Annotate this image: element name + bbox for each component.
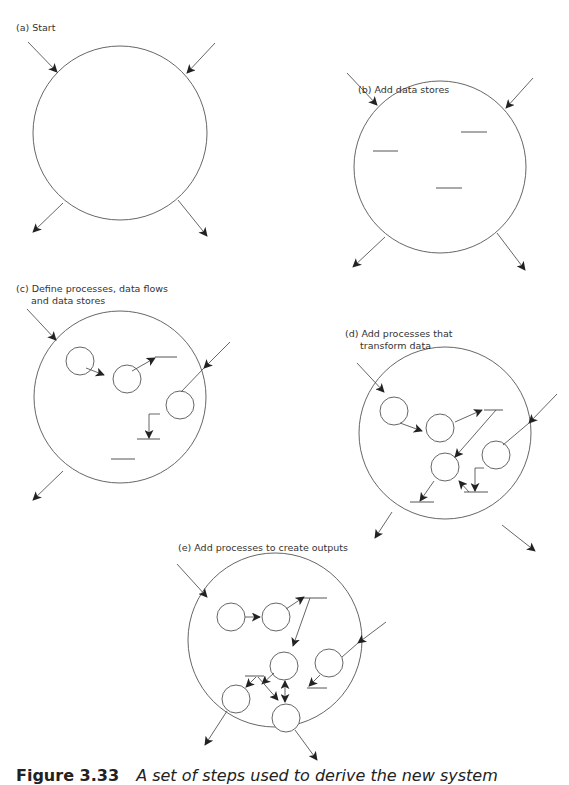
process-bubble — [262, 603, 290, 631]
data-flow — [286, 597, 304, 609]
data-flow — [506, 78, 533, 108]
data-flow — [295, 730, 317, 760]
data-flow — [497, 233, 525, 270]
data-flow — [181, 368, 204, 392]
process-bubble — [113, 365, 141, 393]
panels-root — [27, 42, 557, 760]
process-bubble — [222, 685, 250, 713]
system-boundary — [33, 46, 207, 220]
data-flow — [455, 410, 482, 422]
system-boundary — [188, 553, 362, 727]
process-bubble — [426, 414, 454, 442]
process-bubble — [380, 397, 408, 425]
data-flow — [420, 481, 434, 501]
data-flow — [149, 414, 160, 438]
process-bubble — [315, 649, 343, 677]
data-flow — [358, 622, 386, 643]
data-flow — [475, 468, 484, 491]
figure-number: Figure 3.33 — [16, 766, 119, 785]
data-flow — [205, 711, 227, 745]
panel-b — [347, 73, 533, 270]
data-flow — [33, 471, 63, 500]
panel-label-d: (d) Add processes thattransform data — [345, 328, 453, 352]
data-flow — [262, 673, 274, 684]
data-flow — [204, 342, 230, 368]
panel-label-line: (b) Add data stores — [358, 84, 449, 96]
data-flow — [357, 363, 384, 392]
data-flow — [503, 423, 529, 445]
data-flow — [400, 423, 422, 431]
panel-label-a: (a) Start — [16, 22, 55, 34]
data-flow — [309, 675, 320, 686]
panel-label-line: (d) Add processes that — [345, 328, 453, 340]
data-flow — [246, 677, 256, 687]
data-flow — [293, 598, 310, 646]
panel-label-line: and data stores — [16, 295, 168, 307]
panel-e — [177, 553, 386, 760]
data-flow — [187, 43, 215, 73]
panel-label-line: (e) Add processes to create outputs — [178, 542, 348, 554]
panel-label-line: (c) Define processes, data flows — [16, 283, 168, 295]
panel-c — [27, 309, 230, 500]
process-bubble — [217, 603, 245, 631]
data-flow — [375, 512, 392, 538]
panel-label-c: (c) Define processes, data flowsand data… — [16, 283, 168, 307]
data-flow — [258, 677, 278, 700]
panel-label-b: (b) Add data stores — [358, 84, 449, 96]
data-flow — [33, 203, 63, 232]
panel-label-line: transform data — [345, 340, 453, 352]
process-bubble — [482, 441, 510, 469]
data-flow — [353, 237, 385, 267]
process-bubble — [166, 391, 194, 419]
process-bubble — [431, 453, 459, 481]
figure-caption: Figure 3.33 A set of steps used to deriv… — [16, 766, 498, 785]
process-bubble — [272, 704, 300, 732]
data-flow — [342, 643, 358, 657]
data-flow — [28, 42, 57, 72]
data-flow — [502, 525, 535, 551]
system-boundary — [354, 81, 526, 253]
data-flow — [132, 358, 155, 371]
process-bubble — [66, 347, 94, 375]
figure-caption-text: A set of steps used to derive the new sy… — [136, 766, 498, 785]
process-bubble — [270, 652, 298, 680]
panel-d — [357, 347, 557, 551]
panel-label-line: (a) Start — [16, 22, 55, 34]
data-flow — [459, 481, 469, 492]
panel-label-e: (e) Add processes to create outputs — [178, 542, 348, 554]
data-flow — [27, 309, 56, 340]
data-flow — [178, 200, 207, 236]
data-flow — [529, 394, 557, 423]
panel-a — [28, 42, 215, 236]
data-flow — [177, 564, 207, 597]
